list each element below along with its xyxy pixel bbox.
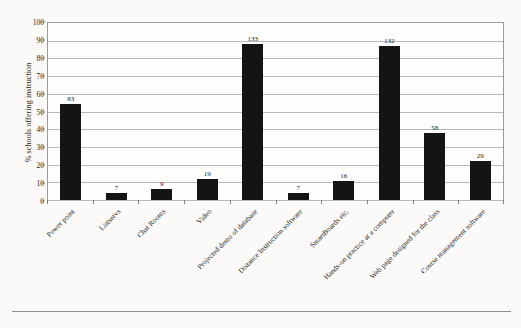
bar: 83 bbox=[60, 104, 81, 200]
bar: 7 bbox=[288, 193, 309, 200]
bar-value-label: 132 bbox=[384, 37, 395, 45]
x-axis-label-cell: Listservs bbox=[93, 205, 139, 315]
bar-slot: 7 bbox=[276, 23, 322, 200]
y-axis-tick-mark bbox=[41, 111, 45, 112]
y-axis-tick-mark bbox=[41, 147, 45, 148]
x-axis-tick-mark bbox=[47, 200, 48, 204]
y-axis-tick-mark bbox=[41, 39, 45, 40]
bar-slot: 133 bbox=[230, 23, 276, 200]
x-axis-label-cell: Distance Instruction software bbox=[276, 205, 322, 315]
x-axis-tick-mark bbox=[413, 200, 414, 204]
bar-series: 8379191337161325829 bbox=[48, 23, 503, 200]
x-axis-tick-mark bbox=[184, 200, 185, 204]
bar-value-label: 83 bbox=[67, 95, 74, 103]
y-axis-tick-mark bbox=[41, 129, 45, 130]
y-axis-tick-labels: 1009080706050403020100 bbox=[18, 22, 44, 201]
x-axis-category-label: Video bbox=[194, 207, 213, 226]
x-axis-category-label: Power point bbox=[44, 207, 76, 239]
x-axis-tick-mark bbox=[138, 200, 139, 204]
bar-value-label: 7 bbox=[114, 184, 118, 192]
bar-slot: 9 bbox=[139, 23, 185, 200]
bar-value-label: 9 bbox=[160, 180, 164, 188]
y-axis-tick-mark bbox=[41, 75, 45, 76]
bar-slot: 83 bbox=[48, 23, 94, 200]
bar: 16 bbox=[333, 181, 354, 200]
x-axis-label-cell: Power point bbox=[47, 205, 93, 315]
bar: 19 bbox=[197, 179, 218, 200]
y-axis-tick-mark bbox=[41, 165, 45, 166]
y-axis-tick-mark bbox=[41, 22, 45, 23]
bar-slot: 58 bbox=[412, 23, 458, 200]
x-axis-category-label: Chat Rooms bbox=[135, 207, 167, 239]
bar: 7 bbox=[106, 193, 127, 200]
x-axis-tick-mark bbox=[367, 200, 368, 204]
x-axis-tick-mark bbox=[93, 200, 94, 204]
x-axis-tick-mark bbox=[458, 200, 459, 204]
bar-slot: 29 bbox=[458, 23, 504, 200]
bar-slot: 132 bbox=[367, 23, 413, 200]
x-axis-label-cell: Chat Rooms bbox=[138, 205, 184, 315]
plot-area: 8379191337161325829 bbox=[47, 22, 504, 201]
x-axis-tick-mark bbox=[230, 200, 231, 204]
x-axis-category-labels: Power pointListservsChat RoomsVideoProje… bbox=[47, 205, 504, 315]
bar-slot: 19 bbox=[185, 23, 231, 200]
y-axis-tick-mark bbox=[41, 93, 45, 94]
bar: 132 bbox=[379, 46, 400, 200]
x-axis-tick-mark bbox=[276, 200, 277, 204]
bar: 133 bbox=[242, 44, 263, 200]
x-axis-tick-mark bbox=[321, 200, 322, 204]
x-axis-label-cell: Course management software bbox=[458, 205, 504, 315]
y-axis-tick-mark bbox=[41, 57, 45, 58]
bar-value-label: 58 bbox=[431, 124, 438, 132]
bar: 58 bbox=[424, 133, 445, 200]
bar-value-label: 7 bbox=[296, 184, 300, 192]
y-axis-tick-mark bbox=[41, 201, 45, 202]
y-axis-tick-mark bbox=[41, 183, 45, 184]
bar: 29 bbox=[470, 161, 491, 200]
x-axis-category-label: Listservs bbox=[97, 207, 122, 232]
bar: 9 bbox=[151, 189, 172, 200]
bar-slot: 16 bbox=[321, 23, 367, 200]
bar-value-label: 19 bbox=[204, 170, 211, 178]
bar-value-label: 29 bbox=[477, 152, 484, 160]
bar-value-label: 16 bbox=[340, 172, 347, 180]
bar-slot: 7 bbox=[94, 23, 140, 200]
bar-chart: % schools offering instruction 100908070… bbox=[0, 0, 521, 328]
bar-value-label: 133 bbox=[247, 35, 258, 43]
